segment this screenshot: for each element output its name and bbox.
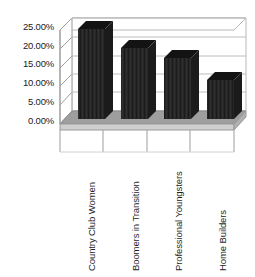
y-tick-label-25: 25.00% [2, 21, 54, 32]
y-tick-label-20: 20.00% [2, 40, 54, 51]
y-tick-label-10: 10.00% [2, 77, 54, 88]
bar-country-club-women [78, 21, 113, 119]
y-tick-label-0: 0.00% [2, 115, 54, 126]
y-tick-label-15: 15.00% [2, 58, 54, 69]
bar-home-builders [207, 72, 242, 119]
x-category-label-home-builders: Home Builders [217, 210, 228, 271]
x-category-label-boomers-in-transition: Boomers in Transition [130, 181, 141, 271]
bar-boomers-in-transition [121, 40, 156, 119]
bar-professional-youngsters [164, 50, 199, 119]
chart-container: 25.00% 20.00% 15.00% 10.00% 5.00% 0.00% … [0, 0, 255, 277]
x-category-label-country-club-women: Country Club Women [86, 182, 97, 271]
x-axis-ticks [60, 130, 234, 152]
x-category-label-professional-youngsters: Professional Youngsters [173, 171, 184, 271]
y-tick-label-5: 5.00% [2, 96, 54, 107]
